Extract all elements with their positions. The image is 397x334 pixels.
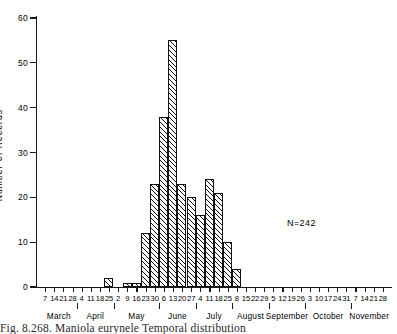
x-tick	[264, 288, 265, 292]
x-tick	[54, 288, 55, 292]
x-tick-label: 26	[297, 294, 305, 303]
x-tick	[191, 288, 192, 292]
sample-size-annotation: N=242	[287, 218, 316, 228]
month-separator	[305, 303, 306, 309]
x-tick	[346, 288, 347, 292]
histogram-bar	[232, 269, 241, 287]
x-tick-label: 7	[353, 294, 357, 303]
y-tick-label: 0	[0, 282, 28, 292]
x-tick-label: 7	[43, 294, 47, 303]
x-tick	[273, 288, 274, 292]
x-tick	[355, 288, 356, 292]
month-label-august: August	[237, 311, 264, 321]
month-separator	[114, 303, 115, 309]
x-tick	[182, 288, 183, 292]
month-separator	[77, 303, 78, 309]
month-label-november: November	[349, 311, 389, 321]
x-tick	[45, 288, 46, 292]
x-tick	[136, 288, 137, 292]
histogram-bar	[205, 179, 214, 287]
x-tick-label: 4	[80, 294, 84, 303]
histogram-bar	[123, 283, 132, 287]
x-axis-line	[36, 287, 392, 288]
x-tick-label: 12	[278, 294, 286, 303]
x-tick	[374, 288, 375, 292]
x-tick	[146, 288, 147, 292]
x-tick	[82, 288, 83, 292]
x-tick	[100, 288, 101, 292]
x-tick-label: 27	[187, 294, 195, 303]
x-tick	[73, 288, 74, 292]
figure-caption: Fig. 8.268. Maniola eurynele Temporal di…	[0, 322, 397, 334]
x-tick-label: 18	[214, 294, 222, 303]
x-tick	[246, 288, 247, 292]
histogram-bar	[104, 278, 113, 287]
x-tick	[118, 288, 119, 292]
x-tick-label: 4	[198, 294, 202, 303]
histogram-bar	[168, 40, 177, 287]
x-tick-label: 21	[370, 294, 378, 303]
x-tick-label: 31	[342, 294, 350, 303]
x-tick-label: 5	[271, 294, 275, 303]
x-tick	[301, 288, 302, 292]
month-label-july: July	[206, 311, 222, 321]
x-tick-label: 2	[116, 294, 120, 303]
x-tick-label: 11	[206, 294, 214, 303]
x-tick-label: 29	[260, 294, 268, 303]
x-tick-label: 19	[287, 294, 295, 303]
x-tick	[337, 288, 338, 292]
y-tick-label: 40	[0, 103, 28, 113]
x-tick-label: 20	[178, 294, 186, 303]
x-tick	[292, 288, 293, 292]
x-tick-label: 13	[169, 294, 177, 303]
x-tick	[209, 288, 210, 292]
histogram-bar	[177, 184, 186, 287]
x-tick	[109, 288, 110, 292]
histogram-bar	[187, 197, 196, 287]
x-tick	[383, 288, 384, 292]
x-tick	[91, 288, 92, 292]
x-tick-label: 11	[87, 294, 95, 303]
y-tick-label: 20	[0, 192, 28, 202]
x-tick-label: 18	[96, 294, 104, 303]
x-tick-label: 14	[50, 294, 58, 303]
x-tick-label: 22	[251, 294, 259, 303]
x-tick-label: 6	[162, 294, 166, 303]
x-tick	[310, 288, 311, 292]
x-tick	[365, 288, 366, 292]
histogram-bar	[196, 215, 205, 287]
x-tick-label: 28	[68, 294, 76, 303]
x-tick	[282, 288, 283, 292]
histogram-bar	[150, 184, 159, 287]
y-tick-label: 50	[0, 58, 28, 68]
histogram-bars	[36, 18, 392, 287]
x-tick	[328, 288, 329, 292]
y-tick-label: 10	[0, 237, 28, 247]
month-separator	[351, 303, 352, 309]
y-tick-label: 60	[0, 13, 28, 23]
month-label-september: September	[266, 311, 308, 321]
x-tick-label: 9	[125, 294, 129, 303]
x-tick	[219, 288, 220, 292]
month-separator	[159, 303, 160, 309]
month-label-may: May	[128, 311, 144, 321]
month-separator	[232, 303, 233, 309]
month-separator	[269, 303, 270, 309]
x-tick-label: 25	[224, 294, 232, 303]
x-tick-label: 30	[151, 294, 159, 303]
month-label-june: June	[168, 311, 187, 321]
x-tick	[63, 288, 64, 292]
month-label-october: October	[313, 311, 344, 321]
x-tick-label: 21	[59, 294, 67, 303]
y-axis-title: Number of Records	[0, 109, 4, 201]
x-tick-label: 10	[315, 294, 323, 303]
x-tick-label: 3	[308, 294, 312, 303]
x-tick	[319, 288, 320, 292]
x-tick	[228, 288, 229, 292]
x-tick	[127, 288, 128, 292]
histogram-bar	[159, 117, 168, 287]
x-tick	[164, 288, 165, 292]
month-label-march: March	[47, 311, 71, 321]
histogram-bar	[132, 283, 141, 287]
